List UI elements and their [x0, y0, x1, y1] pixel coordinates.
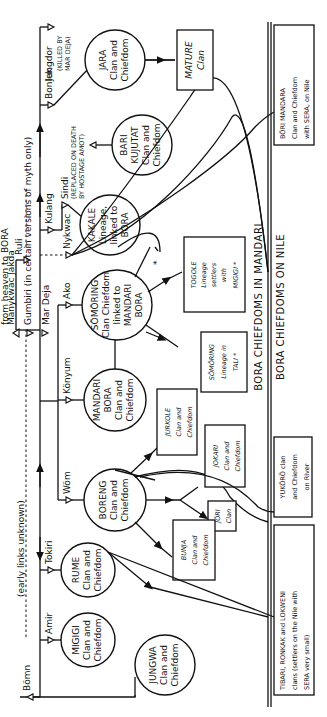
- svg-text:KUJUTAT: KUJUTAT: [130, 126, 140, 164]
- male-ancestor-icon: [90, 142, 96, 148]
- ancestor-bomn: Bömn: [22, 665, 33, 700]
- svg-text:JOKARI: JOKARI: [212, 445, 220, 469]
- svg-text:BY HOSTAGE AMOT): BY HOSTAGE AMOT): [78, 134, 86, 199]
- node-migigi: MIGIGI Clan and Chiefdom: [61, 613, 115, 667]
- svg-text:Clan and Chiefdom: Clan and Chiefdom: [291, 77, 299, 139]
- male-ancestor-icon: [42, 330, 48, 336]
- svg-text:Mar Deja: Mar Deja: [41, 285, 51, 325]
- svg-text:Sindi: Sindi: [60, 177, 70, 199]
- nile-title: BORA CHIEFDOMS ON NILE: [275, 234, 286, 380]
- male-ancestor-icon: [48, 567, 54, 573]
- svg-text:Clan and: Clan and: [223, 441, 231, 471]
- box-bori-mandara: BÖRI MANDARA Clan and Chiefdom with SERA…: [274, 25, 314, 145]
- svg-text:BUNJA: BUNJA: [180, 540, 188, 560]
- node-jungwa: JUNGWA Clan and Chiefdom: [135, 635, 195, 695]
- svg-text:Clan: Clan: [225, 509, 233, 523]
- svg-text:with: with: [220, 268, 228, 282]
- svg-text:YUKÖRÖ clan: YUKÖRÖ clan: [279, 456, 287, 500]
- early-links-annotation: (early links unknown): [16, 500, 26, 597]
- svg-text:Lineage in: Lineage in: [220, 345, 228, 379]
- svg-text:Chiefdom: Chiefdom: [120, 478, 130, 521]
- svg-text:Tokiri: Tokiri: [44, 541, 54, 565]
- heaven-annotation: from heaven to BORA: [0, 227, 10, 325]
- svg-text:Clan and: Clan and: [114, 380, 124, 420]
- svg-text:Clan and: Clan and: [109, 40, 119, 80]
- svg-text:Clan and: Clan and: [175, 407, 183, 437]
- svg-text:SÖMÖRING: SÖMÖRING: [208, 344, 216, 380]
- ancestor-jungdor: Jungdor (KILLED BY MAR DEJA): [44, 24, 72, 82]
- svg-text:JARA: JARA: [98, 49, 108, 72]
- ancestor-nykwac: Nykwac: [62, 214, 72, 258]
- male-ancestor-icon: [48, 24, 54, 30]
- ancestor-kulang: Kulang: [44, 193, 54, 233]
- svg-text:Clan: Clan: [196, 50, 206, 70]
- node-mandari-bora: MANDARI BORA Clan and Chiefdom: [84, 369, 146, 431]
- ancestor-ako: Ako: [62, 282, 72, 308]
- box-mature: MATURE Clan: [177, 30, 213, 90]
- svg-text:Bömn: Bömn: [22, 665, 32, 691]
- male-ancestor-icon: [48, 227, 54, 233]
- svg-text:Chiefdom: Chiefdom: [93, 618, 103, 661]
- svg-text:MANDARI: MANDARI: [123, 284, 133, 327]
- svg-text:clans (settlers on the Nile wi: clans (settlers on the Nile with: [291, 591, 299, 690]
- svg-text:JURKOLE: JURKOLE: [164, 407, 172, 438]
- node-rume: RUME Clan and Chiefdom: [61, 543, 115, 597]
- svg-text:Chiefdom: Chiefdom: [120, 38, 130, 81]
- svg-text:Wöm: Wöm: [62, 471, 72, 494]
- svg-text:TOGOLE: TOGOLE: [190, 261, 198, 289]
- asterisk-marker: *: [152, 260, 162, 265]
- svg-text:linked to: linked to: [112, 285, 122, 324]
- svg-text:MAR DEJA): MAR DEJA): [64, 36, 72, 71]
- ancestor-mar-deja: Mar Deja: [41, 285, 51, 336]
- ancestor-wom: Wöm: [62, 471, 72, 503]
- svg-text:Clan and: Clan and: [82, 620, 92, 660]
- svg-text:Gumbiri (in certain versions o: Gumbiri (in certain versions of myth onl…: [23, 137, 33, 325]
- svg-text:(REPLACED ON DEATH: (REPLACED ON DEATH: [70, 126, 78, 199]
- box-jokari: JOKARI Clan and Chiefdom: [205, 425, 245, 487]
- box-somoring-tali: SÖMÖRING Lineage in TALI *: [201, 332, 247, 392]
- box-tibari: TIBARI, RONKAK and LOKWENI clans (settle…: [274, 525, 314, 695]
- svg-text:SÖMÖRING: SÖMÖRING: [90, 280, 100, 330]
- svg-text:JUNGWA: JUNGWA: [148, 645, 158, 684]
- svg-text:Chiefdom: Chiefdom: [202, 534, 210, 565]
- svg-text:Nykwac: Nykwac: [62, 214, 72, 249]
- genealogy-diagram: Manykwac Jakda Ruli Gumbiri (in certain …: [0, 0, 327, 717]
- male-ancestor-icon: [66, 252, 72, 258]
- ancestor-tokiri: Tokiri: [44, 541, 54, 573]
- svg-text:Amir: Amir: [44, 613, 54, 634]
- svg-text:BORENG: BORENG: [98, 481, 108, 520]
- svg-text:Lineage: Lineage: [200, 262, 208, 288]
- svg-text:Jungdor: Jungdor: [44, 46, 54, 82]
- svg-text:MANDARI: MANDARI: [92, 379, 102, 422]
- svg-text:Könyum: Könyum: [62, 358, 72, 394]
- ancestor-amir: Amir: [44, 613, 54, 643]
- svg-text:Clan and: Clan and: [109, 480, 119, 520]
- svg-text:MATURE: MATURE: [184, 41, 194, 79]
- svg-text:Chiefdom: Chiefdom: [234, 440, 242, 471]
- svg-text:on River: on River: [303, 463, 311, 490]
- box-yukoro: YUKÖRÖ clan and Chiefdom on River: [274, 437, 312, 517]
- svg-text:and Chiefdom: and Chiefdom: [291, 454, 299, 499]
- svg-text:BARI: BARI: [119, 134, 129, 155]
- svg-text:Clan and: Clan and: [191, 535, 199, 565]
- svg-text:Chiefdom: Chiefdom: [152, 123, 162, 166]
- svg-text:Chiefdom: Chiefdom: [125, 378, 135, 421]
- svg-text:Chiefdom: Chiefdom: [170, 643, 180, 686]
- male-ancestor-icon: [62, 202, 68, 208]
- svg-text:(KILLED BY: (KILLED BY: [56, 36, 64, 71]
- male-ancestor-icon: [27, 694, 33, 700]
- box-jurkole: JURKOLE Clan and Chiefdom: [157, 389, 197, 455]
- male-ancestor-icon: [27, 330, 33, 336]
- svg-text:Chiefdom: Chiefdom: [186, 406, 194, 437]
- svg-text:RUME: RUME: [71, 557, 81, 584]
- svg-text:TALI *: TALI *: [232, 352, 240, 371]
- ancestor-konyum: Könyum: [62, 358, 72, 403]
- node-jara: JARA Clan and Chiefdom: [85, 30, 145, 90]
- svg-text:MIGIGI *: MIGIGI *: [232, 261, 240, 288]
- box-togole: TOGOLE Lineage settlers with MIGIGI *: [184, 237, 245, 312]
- svg-text:SERA very small): SERA very small): [303, 635, 311, 690]
- box-bunja: BUNJA Clan and Chiefdom: [173, 520, 215, 580]
- node-somoring: SÖMÖRING Clan Chiefdom linked to MANDARI…: [82, 270, 152, 340]
- ancestor-sindi: Sindi (REPLACED ON DEATH BY HOSTAGE AMOT…: [60, 126, 86, 208]
- male-ancestor-icon: [66, 497, 72, 503]
